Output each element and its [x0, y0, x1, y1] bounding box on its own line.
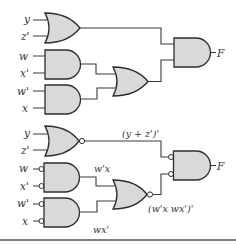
input-label-x: x: [22, 102, 28, 114]
wire-and1-or2: [80, 64, 117, 74]
input-label-z-prime: z': [20, 144, 29, 156]
and-gate-inverted-2: [44, 198, 80, 227]
or-gate-2: [113, 67, 148, 96]
final-input-bubble-2: [169, 172, 174, 177]
input-bubble-x: [39, 219, 44, 224]
input-wires-and2: [33, 91, 45, 108]
wire-and2-nor2: [79, 201, 117, 212]
input-bubble-w-prime: [39, 202, 44, 207]
nor-gate-2: [113, 180, 147, 209]
output-label-F: F: [216, 47, 225, 59]
wire-nor2-final: [153, 174, 168, 195]
input-label-x-prime: x': [20, 67, 29, 79]
nor-gate-1: [45, 126, 79, 156]
expr-label-nor1-output: (y + z')': [122, 128, 159, 139]
wire-or2-final: [148, 60, 174, 82]
logic-circuit-diagram: y z' w x' w' x F y z' w x': [0, 0, 236, 245]
input-label-z-prime: z': [20, 30, 29, 42]
wire-and1-nor2: [79, 177, 117, 186]
input-label-w: w: [19, 162, 28, 174]
or-gate-1: [45, 13, 80, 43]
input-bubble-w: [39, 167, 44, 172]
input-wires-and1: [33, 169, 39, 186]
wire-or1-final: [80, 28, 174, 44]
and-gate-final-inverted: [174, 151, 211, 180]
top-circuit: y z' w x' w' x F: [17, 13, 225, 114]
input-label-w-prime: w': [17, 197, 29, 209]
input-wires-or1: [33, 20, 48, 36]
input-label-x: x: [22, 215, 28, 227]
input-label-x-prime: x': [20, 180, 29, 192]
expr-label-nor2-output: (w'x wx')': [148, 203, 193, 214]
and-gate-1: [45, 50, 81, 79]
and-gate-inverted-1: [44, 163, 79, 192]
and-gate-2: [45, 85, 81, 114]
nor2-inversion-bubble: [147, 192, 152, 197]
input-bubble-x-prime: [39, 184, 44, 189]
expr-label-w-prime-x: w'x: [94, 163, 111, 174]
expr-label-w-x-prime: wx': [93, 224, 109, 235]
output-label-F: F: [216, 160, 225, 172]
wire-and2-or2: [80, 88, 117, 99]
input-label-y: y: [23, 13, 31, 25]
and-gate-final: [174, 38, 211, 67]
final-input-bubble-1: [169, 155, 174, 160]
nor1-inversion-bubble: [79, 138, 84, 143]
input-label-w-prime: w': [17, 85, 29, 97]
input-label-w: w: [19, 50, 28, 62]
input-wires-nor1: [33, 134, 48, 150]
bottom-circuit: y z' w x' w' x w'x wx' (w'x wx')': [17, 126, 225, 235]
input-wires-and1: [33, 56, 45, 73]
wire-nor1-final: [85, 141, 168, 157]
input-wires-and2: [33, 204, 39, 221]
input-label-y: y: [23, 127, 31, 139]
